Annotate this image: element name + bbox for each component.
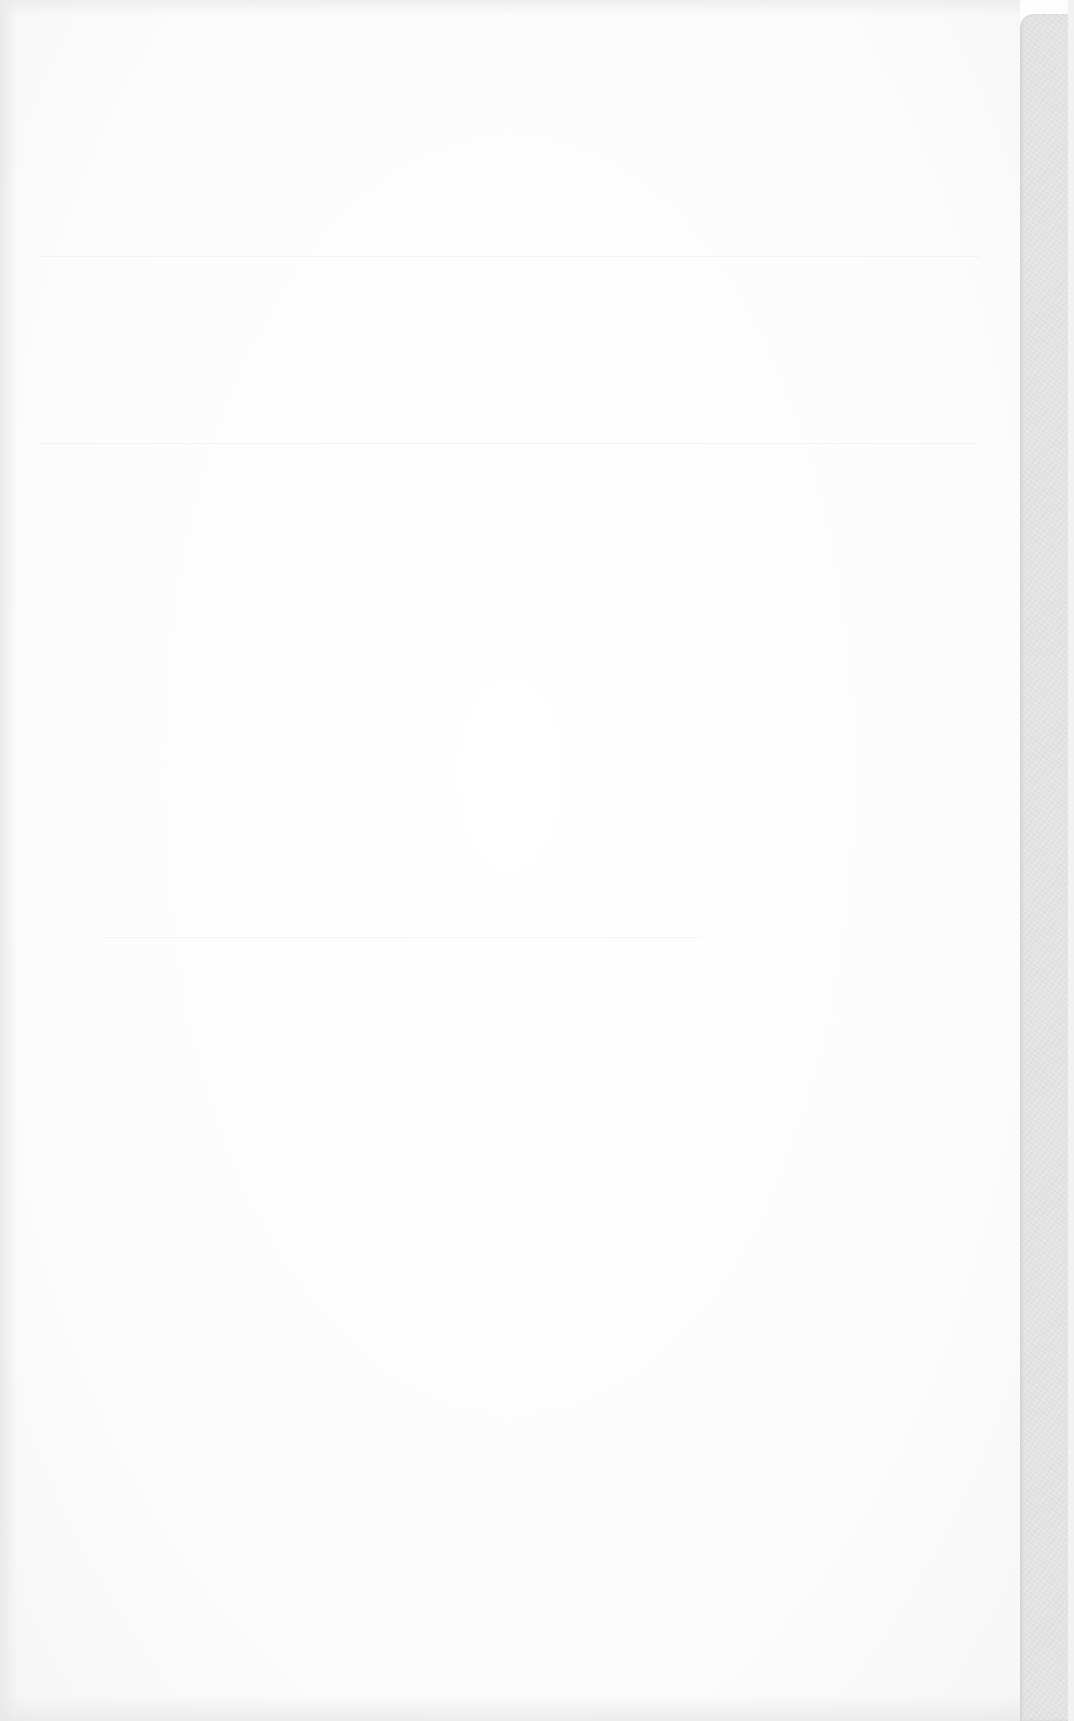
- right-margin: [1068, 0, 1074, 1721]
- top-edge-shadow: [0, 0, 1020, 16]
- left-edge-shadow: [0, 0, 18, 1721]
- show-through-line: [40, 443, 980, 444]
- show-through-line: [100, 937, 700, 938]
- bottom-edge-shadow: [0, 1695, 1020, 1721]
- book-edge-strip: [1020, 14, 1068, 1721]
- show-through-line: [40, 256, 980, 257]
- scanned-page: [0, 0, 1074, 1721]
- blank-paper-area: [0, 0, 1020, 1721]
